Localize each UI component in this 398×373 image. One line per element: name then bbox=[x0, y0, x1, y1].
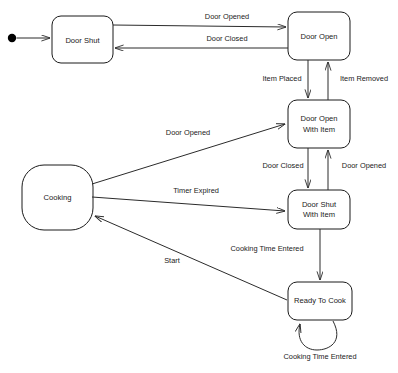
state-door-open-with-item[interactable]: Door Open With Item bbox=[288, 100, 350, 148]
transition-label-start: Start bbox=[164, 256, 180, 265]
state-cooking[interactable]: Cooking bbox=[22, 165, 93, 230]
state-label-cooking: Cooking bbox=[44, 193, 72, 202]
state-label-door-shut-with-item-line1: Door Shut bbox=[302, 200, 337, 209]
state-door-open[interactable]: Door Open bbox=[288, 12, 350, 60]
state-label-door-shut: Door Shut bbox=[65, 36, 100, 45]
state-machine-diagram: Door Shut Door Open Door Open With Item … bbox=[0, 0, 398, 373]
state-label-door-open: Door Open bbox=[300, 32, 337, 41]
transition-door-shut-to-door-open bbox=[113, 25, 286, 27]
transition-label-door-closed-mid: Door Closed bbox=[262, 161, 303, 170]
transition-label-self-cooking-time-entered: Cooking Time Entered bbox=[283, 352, 356, 361]
transition-label-door-opened-cooking: Door Opened bbox=[166, 128, 210, 137]
state-door-shut[interactable]: Door Shut bbox=[52, 16, 113, 63]
transition-label-cooking-time-entered: Cooking Time Entered bbox=[230, 244, 303, 253]
transition-label-item-placed: Item Placed bbox=[262, 74, 301, 83]
state-label-door-open-with-item-line2: With Item bbox=[303, 125, 335, 134]
transition-label-door-closed-top: Door Closed bbox=[206, 34, 247, 43]
transition-cooking-to-door-shut-with-item bbox=[92, 197, 285, 211]
transition-ready-to-cook-to-cooking bbox=[95, 216, 287, 300]
state-label-door-shut-with-item-line2: With Item bbox=[303, 210, 335, 219]
state-label-door-open-with-item-line1: Door Open bbox=[300, 114, 337, 123]
transition-label-timer-expired: Timer Expired bbox=[173, 186, 219, 195]
state-label-ready-to-cook: Ready To Cook bbox=[294, 296, 346, 305]
state-ready-to-cook[interactable]: Ready To Cook bbox=[288, 282, 352, 320]
transition-label-door-opened-mid: Door Opened bbox=[342, 161, 386, 170]
transition-ready-to-cook-self-loop bbox=[299, 321, 337, 350]
state-door-shut-with-item[interactable]: Door Shut With Item bbox=[288, 190, 350, 229]
initial-pseudostate bbox=[8, 34, 50, 42]
start-dot-icon bbox=[8, 34, 16, 42]
transition-label-door-opened-top: Door Opened bbox=[205, 12, 249, 21]
transition-label-item-removed: Item Removed bbox=[340, 74, 388, 83]
state-diagram-canvas: Door Shut Door Open Door Open With Item … bbox=[0, 0, 398, 373]
